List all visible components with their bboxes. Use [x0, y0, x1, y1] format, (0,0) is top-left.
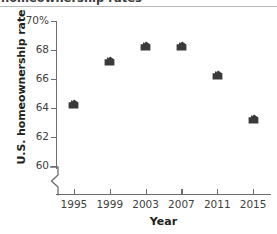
y-axis-tick: [51, 166, 57, 167]
data-point-marker: [140, 41, 151, 51]
x-axis-tick: [253, 189, 254, 195]
y-axis-tick-label: 66: [5, 72, 49, 84]
x-axis-tick: [217, 189, 218, 195]
y-axis-title: U.S. homeownership rate: [15, 15, 28, 165]
axis-break-icon: [49, 166, 65, 196]
x-axis-tick: [74, 189, 75, 195]
chart-figure: U.S. homeownership rate 606264666870%199…: [0, 8, 277, 234]
y-axis-tick-label: 60: [5, 159, 49, 171]
y-axis-tick: [51, 50, 57, 51]
title-divider: [0, 6, 277, 7]
data-point-marker: [104, 56, 115, 66]
y-axis-tick: [51, 79, 57, 80]
x-axis-line: [56, 194, 271, 195]
y-axis-tick-label: 68: [5, 43, 49, 55]
x-axis-tick: [181, 189, 182, 195]
data-point-marker: [176, 41, 187, 51]
y-axis-tick-label: 70%: [5, 14, 49, 26]
x-axis-tick: [110, 189, 111, 195]
chart-title: homeownership rates: [0, 0, 277, 5]
x-axis-tick-label: 2015: [231, 198, 275, 210]
y-axis-line: [56, 21, 57, 169]
y-axis-tick-label: 64: [5, 101, 49, 113]
y-axis-tick: [51, 137, 57, 138]
x-axis-title: Year: [56, 215, 271, 228]
data-point-marker: [248, 114, 259, 124]
y-axis-tick-label: 62: [5, 130, 49, 142]
y-axis-tick: [51, 21, 57, 22]
data-point-marker: [68, 99, 79, 109]
data-point-marker: [212, 70, 223, 80]
y-axis-tick: [51, 108, 57, 109]
x-axis-tick: [146, 189, 147, 195]
